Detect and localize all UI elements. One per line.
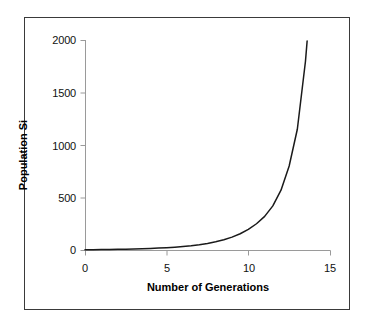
x-tick-label-15: 15 (324, 262, 336, 274)
population-growth-curve (85, 41, 307, 250)
y-tick-label-500: 500 (47, 192, 76, 204)
x-tick-label-10: 10 (243, 262, 255, 274)
x-tick-label-5: 5 (164, 262, 170, 274)
y-axis-title: Population Si (17, 120, 29, 190)
y-tick-label-1500: 1500 (44, 87, 76, 99)
y-tick-label-1000: 1000 (44, 140, 76, 152)
chart-figure: 2000 1500 1000 500 0 0 5 10 15 Populatio… (0, 0, 366, 327)
y-tick-label-0: 0 (54, 244, 76, 256)
y-tick-label-2000: 2000 (44, 34, 76, 46)
plot-area (0, 0, 366, 327)
x-axis-title: Number of Generations (147, 281, 269, 293)
x-tick-label-0: 0 (82, 262, 88, 274)
